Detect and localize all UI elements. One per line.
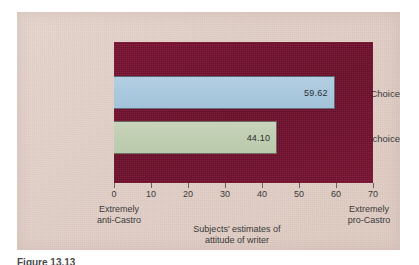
anchor-right-line1: Extremely [327, 204, 411, 215]
anchor-label-left: Extremely anti-Castro [77, 204, 161, 226]
x-axis-title-line2: attitude of writer [137, 235, 337, 246]
x-tick [262, 183, 263, 188]
x-tick-label: 40 [257, 189, 267, 199]
bar-value-no-choice: 44.10 [247, 133, 277, 143]
x-tick-label: 70 [368, 189, 378, 199]
bar-value-choice: 59.62 [304, 88, 334, 98]
x-axis: 010203040506070 [114, 183, 373, 188]
anchor-right-line2: pro-Castro [327, 215, 411, 226]
x-tick-label: 60 [331, 189, 341, 199]
x-axis-title: Subjects' estimates of attitude of write… [137, 224, 337, 246]
x-axis-title-line1: Subjects' estimates of [137, 224, 337, 235]
x-tick [151, 183, 152, 188]
x-tick-label: 30 [220, 189, 230, 199]
figure-panel: Choice No choice 59.62 44.10 01020304050… [17, 12, 400, 250]
x-tick [299, 183, 300, 188]
x-tick [373, 183, 374, 188]
x-tick [114, 183, 115, 188]
bar-no-choice: 44.10 [114, 121, 277, 154]
anchor-left-line1: Extremely [77, 204, 161, 215]
bar-choice: 59.62 [114, 76, 335, 109]
plot-area: 59.62 44.10 [114, 42, 373, 183]
x-tick-label: 50 [294, 189, 304, 199]
figure-caption: Figure 13.13 [17, 257, 75, 265]
x-tick-label: 0 [111, 189, 116, 199]
anchor-label-right: Extremely pro-Castro [327, 204, 411, 226]
x-tick [336, 183, 337, 188]
x-tick [188, 183, 189, 188]
x-tick-label: 20 [183, 189, 193, 199]
x-tick-label: 10 [146, 189, 156, 199]
x-tick [225, 183, 226, 188]
